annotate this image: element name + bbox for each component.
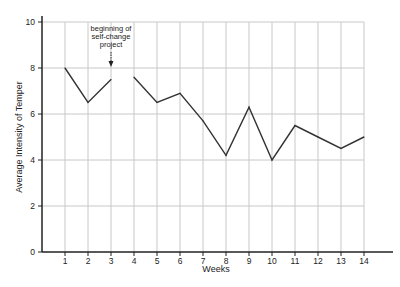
x-tick-label: 2 [86,256,91,266]
data-point [64,67,65,68]
x-tick-label: 1 [63,256,68,266]
annotation-arrowhead [109,61,114,67]
y-tick-labels: 0246810 [26,17,36,257]
y-axis-label: Average Intensity of Temper [14,81,24,193]
data-point [294,125,295,126]
x-tick-label: 9 [247,256,252,266]
y-tick-label: 0 [30,247,35,257]
x-tick-label: 13 [336,256,346,266]
data-point [271,159,272,160]
x-tick-label: 6 [178,256,183,266]
data-point [133,77,134,78]
data-point [225,155,226,156]
data-point [340,148,341,149]
data-point [156,102,157,103]
grid [42,22,364,252]
line-chart: 1234567891011121314 0246810 Weeks Averag… [0,0,400,287]
y-tick-label: 8 [30,63,35,73]
y-tick-label: 4 [30,155,35,165]
x-tick-label: 5 [155,256,160,266]
data-point [87,102,88,103]
y-tick-label: 6 [30,109,35,119]
x-tick-label: 3 [109,256,114,266]
x-tick-label: 10 [267,256,277,266]
axes [38,16,393,256]
x-tick-label: 12 [313,256,323,266]
data-point [202,120,203,121]
annotation-text: project [100,40,123,49]
data-point [363,136,364,137]
data-point [110,79,111,80]
x-tick-label: 4 [132,256,137,266]
data-point [317,136,318,137]
x-axis-label: Weeks [202,264,230,274]
x-tick-label: 11 [291,256,300,266]
data-point [248,107,249,108]
y-tick-label: 10 [26,17,36,27]
annotation: beginning ofself-changeproject [91,24,133,67]
x-tick-label: 14 [359,256,369,266]
y-tick-label: 2 [30,201,35,211]
data-point [179,93,180,94]
